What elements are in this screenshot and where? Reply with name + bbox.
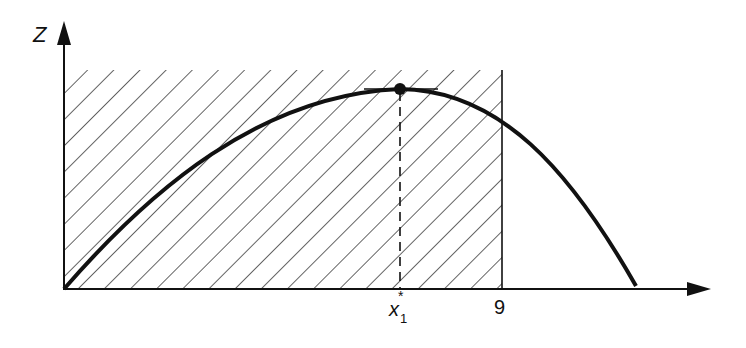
y-axis-label: Z bbox=[33, 22, 46, 48]
x-axis-arrow-icon bbox=[687, 282, 711, 296]
optimum-x-label-superscript: * bbox=[398, 288, 403, 304]
feasible-region-hatch bbox=[64, 70, 502, 289]
y-axis-arrow-icon bbox=[57, 21, 71, 45]
optimum-x-label-subscript: 1 bbox=[400, 311, 407, 326]
diagram-canvas bbox=[0, 0, 746, 348]
optimum-x-label: x1* bbox=[389, 298, 406, 321]
maximum-point bbox=[394, 83, 406, 95]
bound-label: 9 bbox=[494, 296, 505, 319]
